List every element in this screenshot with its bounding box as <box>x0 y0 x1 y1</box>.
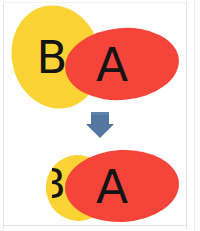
down-arrow-shape <box>86 112 114 138</box>
down-arrow-icon <box>86 112 114 138</box>
down-arrow-highlight <box>91 112 109 115</box>
before-group: B A <box>1 0 182 118</box>
shape-a-label: A <box>96 37 128 92</box>
shape-union-illustration: B A B <box>0 0 200 231</box>
shape-b-result-label-remnant: B <box>38 161 65 207</box>
shape-b-label: B <box>37 31 68 84</box>
shape-a-result-label: A <box>96 159 128 214</box>
diagram-canvas: B A B <box>0 0 200 231</box>
diagram-stage: B A B <box>0 0 200 231</box>
shape-b-result-label: B <box>38 161 65 207</box>
after-group: B A <box>38 147 181 228</box>
